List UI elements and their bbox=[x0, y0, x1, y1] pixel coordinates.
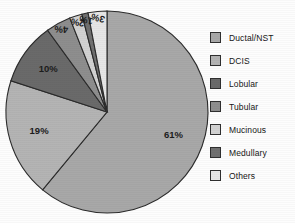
legend-item-label: Medullary bbox=[229, 148, 267, 158]
legend-item: Medullary bbox=[210, 141, 295, 164]
pie-slice-label: 10% bbox=[39, 63, 59, 74]
legend-item: Ductal/NST bbox=[210, 26, 295, 49]
pie-chart-figure: 61%19%10%4%2%1%3% Ductal/NSTDCISLobularT… bbox=[0, 0, 295, 223]
legend-swatch-icon bbox=[210, 78, 221, 89]
legend-swatch-icon bbox=[210, 147, 221, 158]
legend-item-label: Tubular bbox=[229, 102, 258, 112]
legend-swatch-icon bbox=[210, 32, 221, 43]
legend-item-label: Lobular bbox=[229, 79, 258, 89]
legend-item-label: Others bbox=[229, 171, 255, 181]
legend-item: Others bbox=[210, 164, 295, 187]
pie-slice-label: 19% bbox=[30, 125, 50, 136]
pie-slice-label: 4% bbox=[54, 24, 69, 36]
legend-swatch-icon bbox=[210, 124, 221, 135]
legend-item: Lobular bbox=[210, 72, 295, 95]
chart-legend: Ductal/NSTDCISLobularTubularMucinousMedu… bbox=[210, 26, 295, 187]
legend-swatch-icon bbox=[210, 101, 221, 112]
legend-swatch-icon bbox=[210, 55, 221, 66]
legend-item: Tubular bbox=[210, 95, 295, 118]
pie-slice-group bbox=[6, 11, 208, 213]
legend-item-label: DCIS bbox=[229, 56, 250, 66]
legend-item-label: Ductal/NST bbox=[229, 33, 273, 43]
legend-item: DCIS bbox=[210, 49, 295, 72]
legend-item-label: Mucinous bbox=[229, 125, 266, 135]
legend-item: Mucinous bbox=[210, 118, 295, 141]
pie-chart-canvas: 61%19%10%4%2%1%3% bbox=[0, 0, 215, 223]
pie-slice-label: 61% bbox=[164, 129, 184, 140]
legend-swatch-icon bbox=[210, 170, 221, 181]
